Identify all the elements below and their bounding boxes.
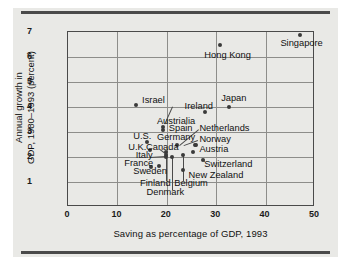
point-label-hong-kong: Hong Kong <box>204 50 251 60</box>
point-label-norway: Norway <box>199 134 231 144</box>
y-tick-label: 2 <box>18 152 32 161</box>
top-rule <box>21 11 330 14</box>
gridline-vertical <box>266 32 267 205</box>
gridline-horizontal <box>68 57 313 58</box>
point-label-austria: Austria <box>199 144 228 154</box>
data-point-israel <box>134 103 138 107</box>
point-label-ireland: Ireland <box>185 101 213 111</box>
point-label-denmark: Denmark <box>147 187 185 197</box>
gridline-horizontal <box>68 82 313 83</box>
point-label-germany: Germany <box>157 132 195 142</box>
point-label-singapore: Singapore <box>280 38 322 48</box>
data-point-belgium <box>181 153 185 157</box>
data-point-denmark <box>170 155 174 159</box>
x-tick-label: 40 <box>252 210 278 219</box>
gridline-horizontal <box>68 157 313 158</box>
data-point-new-zealand <box>181 168 185 172</box>
point-label-sweden: Sweden <box>133 166 167 176</box>
point-label-japan: Japan <box>221 93 246 103</box>
plot-area: SingaporeHong KongJapanIsraelIrelandAust… <box>67 31 314 206</box>
x-tick-label: 0 <box>54 210 80 219</box>
figure-container: Annual growth in GDP, 1980–1993 (percent… <box>0 0 351 270</box>
y-tick-label: 6 <box>18 52 32 61</box>
x-tick-label: 20 <box>153 210 179 219</box>
y-tick-label: 1 <box>18 177 32 186</box>
point-label-netherlands: Netherlands <box>199 123 249 133</box>
point-label-switzerland: Switzerland <box>204 159 252 169</box>
x-axis-title: Saving as percentage of GDP, 1993 <box>67 228 314 239</box>
data-point-finland <box>164 155 168 159</box>
y-tick-label: 7 <box>18 27 32 36</box>
data-point-hong-kong <box>218 43 222 47</box>
leader-line <box>172 157 173 190</box>
x-tick-label: 50 <box>301 210 327 219</box>
point-label-israel: Israel <box>142 95 165 105</box>
y-tick-label: 4 <box>18 102 32 111</box>
y-tick-label: 5 <box>18 77 32 86</box>
data-point-japan <box>227 105 231 109</box>
x-tick-label: 10 <box>103 210 129 219</box>
y-tick-label: 3 <box>18 127 32 136</box>
x-tick-label: 30 <box>202 210 228 219</box>
data-point-ireland <box>203 110 207 114</box>
data-point-austria <box>191 150 195 154</box>
data-point-singapore <box>298 33 302 37</box>
bottom-rule <box>21 251 330 254</box>
gridline-vertical <box>117 32 118 205</box>
point-label-u-s: U.S. <box>133 131 151 141</box>
